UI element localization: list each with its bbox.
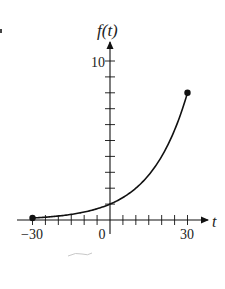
x-tick-label-neg30: −30 bbox=[21, 227, 43, 242]
x-tick-label-30: 30 bbox=[180, 227, 194, 242]
faint-squiggle bbox=[68, 253, 92, 256]
right-endpoint-dot bbox=[184, 90, 190, 96]
y-tick-label-10: 10 bbox=[91, 55, 105, 70]
x-tick-label-0: 0 bbox=[99, 227, 106, 242]
left-endpoint-dot bbox=[29, 215, 35, 221]
y-axis-label: f(t) bbox=[97, 21, 118, 40]
stray-mark bbox=[0, 29, 2, 33]
x-axis-label: t bbox=[212, 213, 217, 230]
exponential-chart: f(t) t 10 −30 0 30 bbox=[0, 0, 225, 289]
